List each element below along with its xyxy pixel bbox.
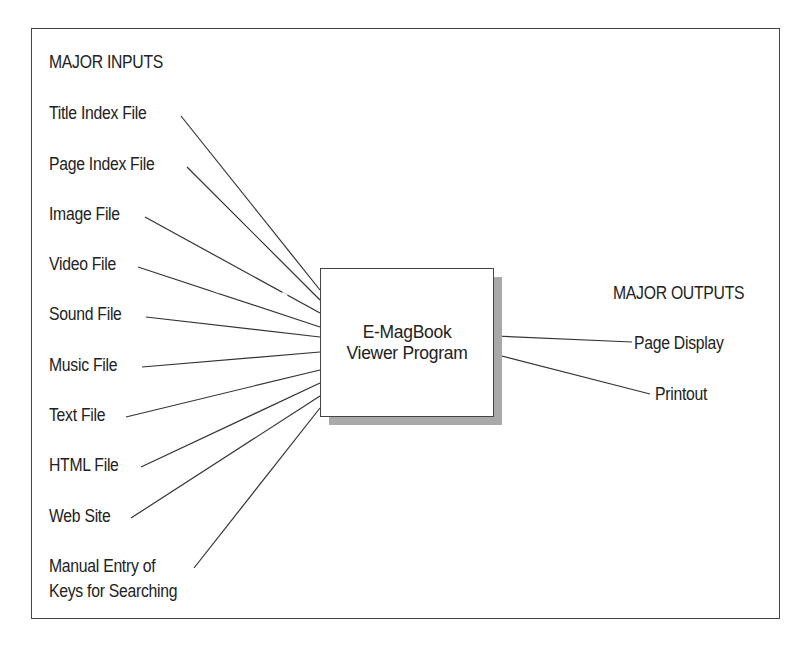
input-manual-entry-line2: Keys for Searching [49, 581, 177, 601]
process-title-line2: Viewer Program [347, 343, 468, 364]
connector-printout [494, 354, 650, 394]
inputs-header: MAJOR INPUTS [49, 52, 163, 72]
output-page-display: Page Display [634, 333, 724, 353]
input-manual-entry-line1: Manual Entry of [49, 556, 155, 576]
process-title-line1: E-MagBook [363, 322, 452, 343]
connector-text [126, 370, 320, 417]
input-page-index-file: Page Index File [49, 154, 154, 174]
output-printout: Printout [655, 384, 707, 404]
connector-title-index [181, 116, 320, 290]
connector-web-site [131, 396, 320, 518]
input-music-file: Music File [49, 355, 117, 375]
input-text-file: Text File [49, 405, 105, 425]
connector-music [142, 352, 320, 367]
connector-page-index [187, 167, 320, 300]
input-image-file: Image File [49, 204, 120, 224]
input-video-file: Video File [49, 254, 116, 274]
input-title-index-file: Title Index File [49, 103, 147, 123]
outputs-header: MAJOR OUTPUTS [613, 283, 744, 303]
connector-manual-entry [194, 408, 320, 568]
connector-video [138, 267, 320, 327]
connector-page-display [494, 336, 632, 342]
input-sound-file: Sound File [49, 304, 122, 324]
input-web-site: Web Site [49, 506, 110, 526]
connector-sound [146, 317, 320, 337]
central-process-box: E-MagBook Viewer Program [320, 268, 494, 417]
input-html-file: HTML File [49, 455, 119, 475]
